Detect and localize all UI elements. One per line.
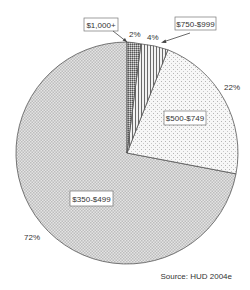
svg-text:$750-$999: $750-$999 xyxy=(176,20,215,29)
pie-chart: $1,000+ 2% $750-$999 4% $500-$749 22% $3… xyxy=(0,0,250,290)
pct-1000-plus: 2% xyxy=(129,30,141,39)
svg-text:$350-$499: $350-$499 xyxy=(72,195,111,204)
svg-text:$500-$749: $500-$749 xyxy=(166,114,205,123)
label-1000-plus: $1,000+ xyxy=(84,18,127,42)
pct-750-999: 4% xyxy=(147,33,159,42)
pct-500-749: 22% xyxy=(224,83,240,92)
svg-text:$1,000+: $1,000+ xyxy=(86,21,115,30)
label-750-999: $750-$999 xyxy=(161,17,216,43)
source-note: Source: HUD 2004e xyxy=(160,272,232,281)
pct-350-499: 72% xyxy=(24,233,40,242)
label-350-499: $350-$499 xyxy=(70,191,113,206)
label-500-749: $500-$749 xyxy=(164,111,206,125)
